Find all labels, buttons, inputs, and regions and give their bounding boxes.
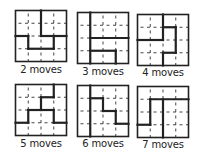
- puzzle-3-moves: [76, 11, 130, 65]
- puzzle-label: 6 moves: [73, 138, 133, 149]
- puzzle-6-moves: [76, 84, 130, 138]
- puzzle-label: 2 moves: [11, 64, 71, 75]
- puzzle-2-moves: [14, 9, 68, 63]
- puzzle-4-moves: [136, 13, 190, 67]
- puzzle-5-moves: [14, 83, 68, 137]
- puzzle-label: 3 moves: [73, 66, 133, 77]
- puzzle-7-moves: [136, 85, 190, 139]
- puzzle-label: 5 moves: [11, 138, 71, 149]
- puzzle-label: 4 moves: [133, 67, 193, 78]
- puzzle-label: 7 moves: [133, 139, 193, 150]
